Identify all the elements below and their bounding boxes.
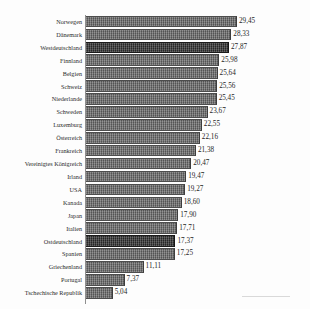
bar-fill	[86, 29, 231, 41]
value-label: 22,16	[202, 133, 218, 141]
bar	[86, 93, 216, 103]
value-label: 5,04	[115, 288, 128, 296]
bar-row: Finnland25,98	[0, 53, 310, 66]
category-label: Tschechische Republik	[25, 289, 82, 296]
value-label: 17,71	[179, 224, 195, 232]
bar-fill	[86, 67, 218, 79]
category-label: Portugal	[61, 276, 82, 283]
bar-row: Portugal7,37	[0, 273, 310, 286]
value-label: 7,37	[127, 275, 140, 283]
bar-fill	[86, 106, 208, 118]
category-label: Schweiz	[61, 82, 82, 89]
value-label: 28,33	[233, 30, 249, 38]
bar-row: Ostdeutschland17,37	[0, 234, 310, 247]
category-label: Dänemark	[56, 30, 82, 37]
bar	[86, 171, 185, 181]
bar-fill	[86, 93, 217, 105]
bar	[86, 287, 112, 297]
value-label: 22,55	[204, 120, 220, 128]
bar-row: Irland19,47	[0, 170, 310, 183]
bar	[86, 29, 230, 39]
category-label: Belgien	[63, 69, 82, 76]
category-label: Italien	[66, 224, 82, 231]
bar-fill	[86, 248, 175, 260]
category-label: Westdeutschland	[40, 43, 82, 50]
value-label: 17,90	[180, 211, 196, 219]
bar-fill	[86, 42, 229, 54]
page-title	[0, 0, 310, 2]
category-label: Vereinigtes Königreich	[25, 160, 82, 167]
bar-row: USA19,27	[0, 182, 310, 195]
value-label: 25,64	[220, 69, 236, 77]
bar-row: Spanien17,25	[0, 247, 310, 260]
bar-fill	[86, 119, 202, 131]
category-label: Ostdeutschland	[44, 237, 82, 244]
bar-row: Norwegen29,45	[0, 15, 310, 28]
bar	[86, 42, 228, 52]
value-label: 25,56	[219, 82, 235, 90]
bar-fill	[86, 222, 177, 234]
scan-artifact	[242, 296, 290, 297]
plot-area: Norwegen29,45Dänemark28,33Westdeutschlan…	[0, 14, 310, 306]
bar-row: Dänemark28,33	[0, 27, 310, 40]
category-label: Österreich	[56, 134, 82, 141]
value-label: 18,60	[184, 198, 200, 206]
bar-row: Japan17,90	[0, 208, 310, 221]
value-label: 27,87	[231, 43, 247, 51]
value-label: 19,47	[188, 172, 204, 180]
value-label: 25,45	[219, 94, 235, 102]
bar-fill	[86, 235, 175, 247]
bar-fill	[86, 132, 200, 144]
bar-fill	[86, 197, 182, 209]
bar-row: Vereinigtes Königreich20,47	[0, 157, 310, 170]
bar-fill	[86, 54, 219, 66]
bar-row: Frankreich21,38	[0, 144, 310, 157]
bar	[86, 197, 181, 207]
bar	[86, 67, 217, 77]
bar-fill	[86, 171, 186, 183]
category-label: Griechenland	[49, 263, 82, 270]
value-label: 21,38	[198, 146, 214, 154]
bar-fill	[86, 209, 178, 221]
category-label: Niederlande	[52, 95, 82, 102]
value-label: 19,27	[187, 185, 203, 193]
bar-chart: Norwegen29,45Dänemark28,33Westdeutschlan…	[0, 0, 310, 309]
bar-fill	[86, 145, 196, 157]
bar-row: Niederlande25,45	[0, 92, 310, 105]
bar-row: Griechenland11,11	[0, 260, 310, 273]
bar	[86, 261, 143, 271]
bar-fill	[86, 80, 217, 92]
category-label: Kanada	[63, 198, 82, 205]
bar-fill	[86, 16, 237, 28]
bar	[86, 222, 176, 232]
bar-fill	[86, 184, 185, 196]
bar-fill	[86, 158, 191, 170]
bar-fill	[86, 287, 113, 299]
bar	[86, 54, 218, 64]
value-label: 11,11	[146, 262, 162, 270]
bar	[86, 16, 236, 26]
bar-row: Schweiz25,56	[0, 79, 310, 92]
bar	[86, 158, 190, 168]
bar	[86, 274, 124, 284]
bar-row: Österreich22,16	[0, 131, 310, 144]
category-label: Spanien	[62, 250, 82, 257]
value-label: 23,67	[210, 107, 226, 115]
bar	[86, 209, 177, 219]
value-label: 17,25	[177, 249, 193, 257]
category-label: USA	[70, 185, 82, 192]
bar-fill	[86, 274, 125, 286]
category-label: Norwegen	[56, 17, 82, 24]
bar-row: Italien17,71	[0, 221, 310, 234]
bar	[86, 145, 195, 155]
bar	[86, 248, 174, 258]
bar	[86, 235, 174, 245]
category-label: Schweden	[57, 108, 82, 115]
value-label: 20,47	[193, 159, 209, 167]
value-label: 25,98	[221, 56, 237, 64]
bar	[86, 119, 201, 129]
bar-fill	[86, 261, 144, 273]
bar	[86, 184, 184, 194]
value-label: 17,37	[177, 237, 193, 245]
bar-row: Westdeutschland27,87	[0, 40, 310, 53]
